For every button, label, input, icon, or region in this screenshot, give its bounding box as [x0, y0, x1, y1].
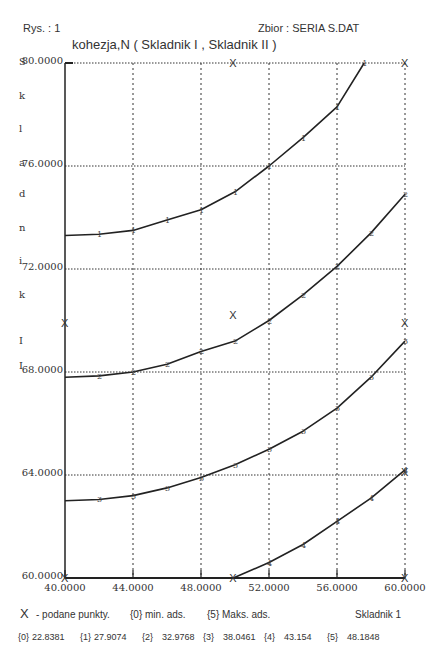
- given-point-marker: X: [229, 57, 237, 69]
- series-4-point-marker: 4: [267, 559, 272, 568]
- level-value: 38.0461: [223, 632, 256, 642]
- level-value: 43.154: [284, 632, 312, 642]
- given-point-marker: X: [401, 317, 409, 329]
- y-axis-label-char: k: [19, 289, 25, 300]
- series-1-point-marker: 1: [233, 188, 238, 197]
- level-key: {0}: [18, 632, 29, 642]
- legend-min: {0} min. ads.: [130, 609, 186, 620]
- series-1-point-marker: 1: [199, 206, 204, 215]
- series-2-point-marker: 2: [301, 291, 306, 300]
- level-key: {4}: [264, 632, 275, 642]
- series-2-point-marker: 2: [335, 262, 340, 271]
- y-axis-label-char: I: [19, 335, 23, 346]
- series-1-point-marker: 1: [301, 134, 306, 143]
- level-value: 48.1848: [347, 632, 380, 642]
- series-4-point-marker: 4: [335, 517, 340, 526]
- y-tick-label: 68.0000: [13, 364, 63, 375]
- series-4-line: [233, 470, 405, 578]
- series-2-point-marker: 2: [165, 360, 170, 369]
- series-3-point-marker: 3: [403, 337, 408, 346]
- series-2-point-marker: 2: [233, 337, 238, 346]
- series-1-point-marker: 1: [97, 230, 102, 239]
- given-point-marker: X: [401, 57, 409, 69]
- legend-x-marker: X: [20, 606, 29, 621]
- series-3-point-marker: 3: [165, 484, 170, 493]
- series-1-point-marker: 1: [267, 162, 272, 171]
- x-tick-label: 44.0000: [103, 582, 163, 593]
- x-axis-label: Skladnik 1: [355, 609, 401, 620]
- x-tick-label: 60.0000: [375, 582, 429, 593]
- level-value: 27.9074: [94, 632, 127, 642]
- y-tick-label: 76.0000: [13, 158, 63, 169]
- x-tick-label: 48.0000: [171, 582, 231, 593]
- series-2-point-marker: 2: [369, 229, 374, 238]
- level-key: {2}: [142, 632, 153, 642]
- series-3-point-marker: 3: [131, 492, 136, 501]
- given-point-marker: X: [61, 317, 69, 329]
- series-2-point-marker: 2: [131, 368, 136, 377]
- x-tick-label: 56.0000: [307, 582, 367, 593]
- series-3-point-marker: 3: [199, 474, 204, 483]
- series-3-point-marker: 3: [267, 445, 272, 454]
- y-tick-label: 72.0000: [13, 261, 63, 272]
- series-2-point-marker: 2: [199, 347, 204, 356]
- legend-max: {5} Maks. ads.: [207, 609, 270, 620]
- series-3-point-marker: 3: [233, 461, 238, 470]
- series-3-point-marker: 3: [97, 495, 102, 504]
- level-key: {3}: [203, 632, 214, 642]
- series-1-point-marker: 1: [362, 59, 367, 68]
- series-1-point-marker: 1: [335, 103, 340, 112]
- series-1-point-marker: 1: [131, 226, 136, 235]
- y-axis-label-char: l: [19, 123, 22, 134]
- y-axis-label-char: n: [19, 222, 25, 233]
- x-tick-label: 40.0000: [35, 582, 95, 593]
- level-value: 32.9768: [162, 632, 195, 642]
- y-axis-label-char: k: [19, 90, 25, 101]
- y-axis-label-char: d: [19, 188, 25, 199]
- series-3-point-marker: 3: [369, 373, 374, 382]
- series-1-line: [65, 63, 364, 236]
- plot-area: 1111111112222222222333333333344444XXXXXX…: [0, 0, 429, 669]
- series-2-point-marker: 2: [97, 372, 102, 381]
- series-3-point-marker: 3: [301, 427, 306, 436]
- given-point-marker: X: [401, 466, 409, 478]
- y-tick-label: 60.0000: [13, 570, 63, 581]
- x-tick-label: 52.0000: [239, 582, 299, 593]
- y-tick-label: 64.0000: [13, 467, 63, 478]
- level-key: {1}: [80, 632, 91, 642]
- given-point-marker: X: [229, 309, 237, 321]
- series-2-point-marker: 2: [267, 317, 272, 326]
- level-value: 22.8381: [32, 632, 65, 642]
- series-1-point-marker: 1: [165, 216, 170, 225]
- y-tick-label: 80.0000: [13, 55, 63, 66]
- series-2-line: [65, 194, 405, 377]
- level-key: {5}: [327, 632, 338, 642]
- series-4-point-marker: 4: [369, 494, 374, 503]
- series-4-point-marker: 4: [301, 541, 306, 550]
- series-3-point-marker: 3: [335, 404, 340, 413]
- series-2-point-marker: 2: [403, 190, 408, 199]
- legend-given-points: - podane punkty.: [36, 609, 110, 620]
- series-3-line: [65, 341, 405, 501]
